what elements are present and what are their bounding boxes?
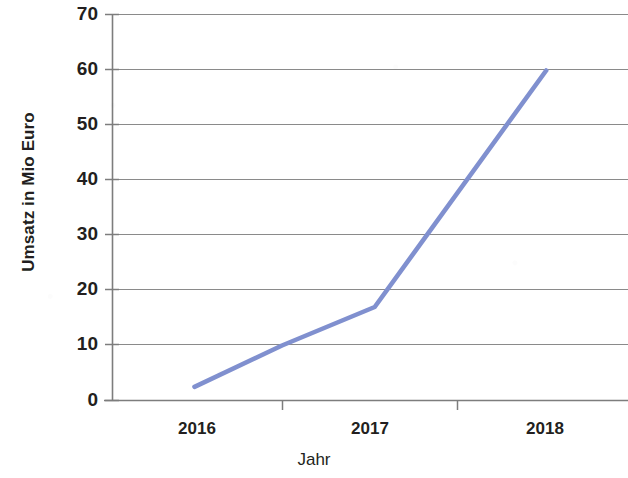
x-axis-ticks xyxy=(283,400,458,410)
x-tick-label-2016: 2016 xyxy=(137,420,257,437)
x-axis-title: Jahr xyxy=(0,450,628,470)
series-umsatz-line xyxy=(195,71,547,387)
gridlines xyxy=(112,15,628,345)
y-tick-label-0: 0 xyxy=(12,390,98,409)
x-tick-label-2018: 2018 xyxy=(485,420,605,437)
y-tick-label-10: 10 xyxy=(12,334,98,353)
x-tick-label-2017: 2017 xyxy=(310,420,430,437)
line-chart-figure: 70 60 50 40 30 20 10 0 2016 2017 2018 Um… xyxy=(0,0,628,478)
y-tick-label-70: 70 xyxy=(12,4,98,23)
y-axis-title: Umsatz in Mio Euro xyxy=(19,67,39,317)
